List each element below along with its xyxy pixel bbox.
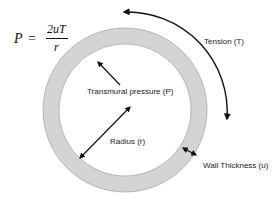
transmural-pressure-label: Transmural pressure (P): [87, 88, 173, 96]
tension-label: Tension (T): [204, 38, 244, 46]
formula-equals: =: [28, 31, 36, 47]
radius-arrow: [80, 107, 130, 158]
formula-fraction-bar: [46, 38, 68, 39]
formula-denominator: r: [54, 40, 59, 55]
wall-thickness-label: Wall Thickness (u): [203, 162, 268, 170]
radius-label: Radius (r): [110, 138, 145, 146]
formula-numerator: 2uT: [47, 22, 66, 37]
transmural-pressure-arrow: [98, 62, 120, 85]
formula-lhs: P: [14, 31, 23, 47]
vessel-wall-ring: [43, 28, 207, 192]
